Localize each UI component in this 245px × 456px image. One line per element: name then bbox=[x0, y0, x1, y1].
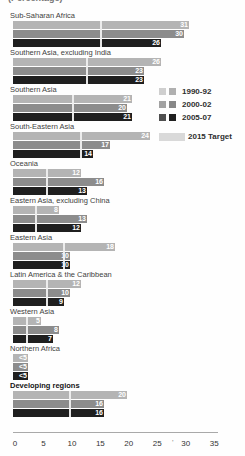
bar-value-label: 16 bbox=[95, 409, 103, 417]
undernourishment-bar-chart-figure: (Percentage) Sub-Saharan Africa313026Sou… bbox=[0, 0, 245, 456]
legend-swatch-icon bbox=[159, 88, 166, 95]
region-group: Sub-Saharan Africa313026 bbox=[13, 11, 223, 47]
bar-value-label: 21 bbox=[123, 113, 131, 121]
cropped-caption: (Percentage) bbox=[8, 0, 188, 6]
region-bars: 262323 bbox=[13, 58, 223, 84]
bar-value-label: 23 bbox=[135, 76, 143, 84]
bar-2005-07: 23 bbox=[13, 76, 144, 84]
bar-value-label: <5 bbox=[19, 363, 27, 371]
region-bars: 313026 bbox=[13, 21, 223, 47]
x-axis-tick-label: 0 bbox=[13, 439, 17, 448]
bar-value-label: 24 bbox=[141, 132, 149, 140]
bar-2000-02: 16 bbox=[13, 178, 104, 186]
target-2015-line bbox=[72, 95, 74, 121]
x-axis: 05101520253035' bbox=[0, 432, 245, 454]
target-2015-line bbox=[46, 169, 48, 195]
bar-value-label: 16 bbox=[95, 400, 103, 408]
bar-value-label: 7 bbox=[48, 335, 52, 343]
region-label: Sub-Saharan Africa bbox=[10, 11, 223, 21]
bar-value-label: 26 bbox=[152, 58, 160, 66]
region-bars: 181010 bbox=[13, 243, 223, 269]
legend-label: 2000-02 bbox=[182, 100, 211, 109]
region-label: Eastern Asia, excluding China bbox=[10, 196, 223, 206]
bar-1990-92: <5 bbox=[13, 354, 28, 362]
bar-2005-07: 16 bbox=[13, 409, 104, 417]
region-label: Western Asia bbox=[10, 307, 223, 317]
target-2015-line bbox=[86, 58, 88, 84]
bar-value-label: 20 bbox=[118, 391, 126, 399]
bar-2000-02: <5 bbox=[13, 363, 28, 371]
bar-2000-02: 8 bbox=[13, 326, 59, 334]
region-bars: <5<5<5 bbox=[13, 354, 223, 380]
bar-chart: Sub-Saharan Africa313026Southern Asia, e… bbox=[13, 11, 223, 418]
bar-value-label: 8 bbox=[54, 326, 58, 334]
bar-value-label: 13 bbox=[78, 187, 86, 195]
bar-2000-02: 10 bbox=[13, 252, 70, 260]
region-label: Northern Africa bbox=[10, 344, 223, 354]
bar-2000-02: 16 bbox=[13, 400, 104, 408]
bar-2000-02: 23 bbox=[13, 67, 144, 75]
bar-value-label: 10 bbox=[61, 289, 69, 297]
target-2015-line bbox=[46, 280, 48, 306]
x-axis-tick-label: 25 bbox=[153, 439, 162, 448]
target-2015-line bbox=[35, 206, 37, 232]
region-group: Southern Asia, excluding India262323 bbox=[13, 48, 223, 84]
legend-swatch-icon bbox=[169, 88, 176, 95]
bar-2000-02: 10 bbox=[13, 289, 70, 297]
x-axis-tick-label: 10 bbox=[67, 439, 76, 448]
x-axis-tick-label: 15 bbox=[96, 439, 105, 448]
bar-value-label: 14 bbox=[84, 150, 92, 158]
region-bars: 12109 bbox=[13, 280, 223, 306]
legend-swatch-icon bbox=[169, 114, 176, 121]
region-group: Eastern Asia181010 bbox=[13, 233, 223, 269]
bar-value-label: <5 bbox=[19, 354, 27, 362]
region-bars: 587 bbox=[13, 317, 223, 343]
x-axis-tick-label: 35 bbox=[210, 439, 219, 448]
region-label: Developing regions bbox=[10, 381, 223, 391]
bar-2005-07: 12 bbox=[13, 224, 81, 232]
legend-row: 1990-92 bbox=[159, 86, 232, 97]
x-axis-tick-label: 30 bbox=[181, 439, 190, 448]
bar-2005-07: 9 bbox=[13, 298, 64, 306]
legend-label: 1990-92 bbox=[182, 87, 211, 96]
bar-value-label: 12 bbox=[72, 280, 80, 288]
cropped-caption-text: (Percentage) bbox=[8, 0, 188, 3]
bar-value-label: 30 bbox=[175, 30, 183, 38]
target-2015-line bbox=[80, 132, 82, 158]
legend-row: 2005-07 bbox=[159, 112, 232, 123]
bar-value-label: 9 bbox=[59, 298, 63, 306]
region-bars: 201616 bbox=[13, 391, 223, 417]
x-axis-line bbox=[13, 432, 218, 433]
bar-value-label: <5 bbox=[19, 372, 27, 380]
bar-value-label: 26 bbox=[152, 39, 160, 47]
legend-swatch-icon bbox=[169, 101, 176, 108]
bar-value-label: 8 bbox=[54, 206, 58, 214]
target-swatch-icon bbox=[159, 133, 185, 141]
region-label: Oceania bbox=[10, 159, 223, 169]
bar-2005-07: 13 bbox=[13, 187, 87, 195]
bar-2000-02: 30 bbox=[13, 30, 184, 38]
region-group: Developing regions201616 bbox=[13, 381, 223, 417]
bar-value-label: 12 bbox=[72, 224, 80, 232]
region-bars: 121613 bbox=[13, 169, 223, 195]
target-2015-line bbox=[26, 317, 28, 343]
legend: 1990-922000-022005-072015 Target bbox=[159, 86, 232, 144]
region-group: Latin America & the Caribbean12109 bbox=[13, 270, 223, 306]
bar-value-label: 20 bbox=[118, 104, 126, 112]
target-2015-line bbox=[100, 21, 102, 47]
x-axis-tick-label: 5 bbox=[41, 439, 45, 448]
target-2015-line bbox=[63, 243, 65, 269]
target-2015-line bbox=[69, 391, 71, 417]
x-axis-tick-label: 20 bbox=[124, 439, 133, 448]
region-bars: 81312 bbox=[13, 206, 223, 232]
bar-value-label: 31 bbox=[180, 21, 188, 29]
legend-label: 2005-07 bbox=[182, 113, 211, 122]
legend-target-row: 2015 Target bbox=[159, 131, 232, 142]
legend-swatch-icon bbox=[159, 101, 166, 108]
bar-2000-02: 13 bbox=[13, 215, 87, 223]
bar-2005-07: 10 bbox=[13, 261, 70, 269]
region-group: Western Asia587 bbox=[13, 307, 223, 343]
region-label: Latin America & the Caribbean bbox=[10, 270, 223, 280]
region-group: Northern Africa<5<5<5 bbox=[13, 344, 223, 380]
legend-row: 2000-02 bbox=[159, 99, 232, 110]
